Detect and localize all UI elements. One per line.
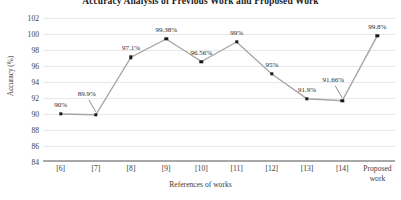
y-axis-tick-label: 98 [31, 46, 39, 55]
data-marker [94, 113, 97, 116]
data-marker [340, 99, 343, 102]
data-point-label: 96.56% [191, 49, 213, 57]
data-marker [376, 34, 379, 37]
data-marker [129, 55, 132, 58]
y-axis-tick-label: 84 [31, 158, 39, 167]
data-point-label: 90% [54, 101, 67, 109]
y-axis-title: Accuracy (%) [7, 36, 15, 116]
y-axis-tick-label: 96 [31, 62, 39, 71]
data-marker [59, 112, 62, 115]
y-axis-tick-label: 94 [31, 78, 39, 87]
data-point-label: 91.66% [322, 76, 344, 84]
y-axis-tick-label: 86 [31, 142, 39, 151]
y-axis-tick-label: 88 [31, 126, 39, 135]
data-marker [164, 37, 167, 40]
data-point-label: 89.9% [78, 90, 96, 98]
chart-title: Accuracy Analysis of Previous Work and P… [0, 0, 401, 7]
y-axis-tick-label: 100 [28, 30, 39, 39]
data-marker [200, 60, 203, 63]
data-marker [235, 40, 238, 43]
data-marker [270, 72, 273, 75]
data-point-label: 97.1% [122, 44, 140, 52]
y-axis-tick-label: 102 [28, 14, 39, 23]
data-point-label: 99.38% [155, 26, 177, 34]
x-axis-line [43, 160, 395, 162]
plot-area: 1021009896949290888684 90%89.9%97.1%99.3… [43, 18, 395, 162]
x-axis-title: References of works [0, 180, 401, 189]
data-marker [305, 97, 308, 100]
data-point-label: 99% [230, 29, 243, 37]
data-point-label: 95% [265, 61, 278, 69]
y-axis-tick-label: 90 [31, 110, 39, 119]
data-point-label: 99.8% [368, 23, 386, 31]
data-point-label: 91.9% [298, 86, 316, 94]
accuracy-line-chart: Accuracy Analysis of Previous Work and P… [0, 0, 401, 200]
y-axis-tick-label: 92 [31, 94, 39, 103]
